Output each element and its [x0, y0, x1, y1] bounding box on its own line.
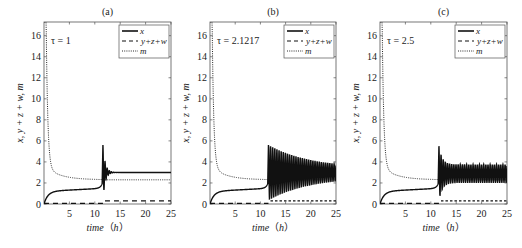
y-tick-label: 12 [31, 72, 41, 83]
y-tick-label: 6 [372, 135, 377, 146]
x-tick-label: 20 [477, 208, 487, 219]
x-tick-label: 5 [67, 208, 72, 219]
y-tick-label: 12 [197, 72, 207, 83]
y-tick-label: 2 [202, 177, 207, 188]
x-tick-label: 10 [90, 208, 100, 219]
x-axis-label: time（h） [252, 222, 294, 233]
x-tick-label: 15 [115, 208, 125, 219]
legend-label-x: x [304, 26, 309, 36]
legend: xy+z+wm [119, 25, 169, 58]
y-tick-label: 12 [367, 72, 377, 83]
y-tick-label: 16 [31, 30, 41, 41]
x-tick-label: 5 [233, 208, 238, 219]
tau-annotation: τ = 2.1217 [217, 35, 259, 46]
x-axis-label: time（h） [422, 222, 464, 233]
legend: xy+z+wm [455, 25, 505, 58]
x-tick-label: 10 [255, 208, 265, 219]
legend-label-x: x [139, 26, 144, 36]
y-tick-label: 8 [202, 114, 207, 125]
y-tick-label: 0 [202, 199, 207, 210]
x-tick-label: 25 [502, 208, 512, 219]
y-tick-label: 0 [36, 199, 41, 210]
x-tick-label: 25 [166, 208, 176, 219]
tau-annotation: τ = 2.5 [387, 35, 414, 46]
legend-label-yzw: y+z+w [305, 36, 332, 46]
y-tick-label: 6 [36, 135, 41, 146]
y-tick-label: 8 [372, 114, 377, 125]
panel-title: (a) [102, 6, 113, 18]
y-tick-label: 6 [202, 135, 207, 146]
y-tick-label: 14 [367, 51, 377, 62]
legend-label-m: m [476, 46, 483, 56]
x-tick-label: 20 [141, 208, 151, 219]
x-tick-label: 15 [281, 208, 291, 219]
y-tick-label: 4 [36, 156, 41, 167]
y-axis-label: x, y + z + w, m [350, 83, 361, 143]
y-tick-label: 14 [197, 51, 207, 62]
panel-title: (b) [267, 6, 279, 18]
y-axis-label: x, y + z + w, m [180, 83, 191, 143]
x-tick-label: 20 [306, 208, 316, 219]
x-tick-label: 25 [331, 208, 341, 219]
y-tick-label: 0 [372, 199, 377, 210]
y-tick-label: 10 [367, 93, 377, 104]
panel-title: (c) [438, 6, 449, 18]
x-axis-label: time（h） [86, 222, 128, 233]
y-axis-label: x, y + z + w, m [14, 83, 25, 143]
panel-c: (c)0246810121416510152025time（h）x, y + z… [350, 6, 512, 233]
panel-b: (b)0246810121416510152025time（h）x, y + z… [180, 6, 341, 233]
y-tick-label: 10 [31, 93, 41, 104]
y-tick-label: 16 [367, 30, 377, 41]
x-tick-label: 15 [451, 208, 461, 219]
three-panel-time-series-chart: (a)0246810121416510152025time（h）x, y + z… [0, 0, 522, 248]
legend-label-yzw: y+z+w [140, 36, 167, 46]
x-tick-label: 5 [403, 208, 408, 219]
legend-label-x: x [475, 26, 480, 36]
figure: (a)0246810121416510152025time（h）x, y + z… [0, 0, 522, 248]
y-tick-label: 4 [202, 156, 207, 167]
tau-annotation: τ = 1 [51, 35, 71, 46]
y-tick-label: 2 [372, 177, 377, 188]
legend: xy+z+wm [284, 25, 334, 58]
y-tick-label: 8 [36, 114, 41, 125]
y-tick-label: 14 [31, 51, 41, 62]
legend-label-yzw: y+z+w [476, 36, 503, 46]
y-tick-label: 4 [372, 156, 377, 167]
panel-a: (a)0246810121416510152025time（h）x, y + z… [14, 6, 176, 233]
y-tick-label: 16 [197, 30, 207, 41]
y-tick-label: 10 [197, 93, 207, 104]
legend-label-m: m [305, 46, 312, 56]
y-tick-label: 2 [36, 177, 41, 188]
x-tick-label: 10 [426, 208, 436, 219]
legend-label-m: m [140, 46, 147, 56]
